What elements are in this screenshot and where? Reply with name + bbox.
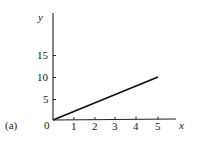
x-axis-label: x [178,119,184,131]
y-tick-label-5: 5 [43,93,49,105]
y-axis-label: y [37,11,43,23]
y-tick-label-10: 10 [37,71,49,83]
x-tick-label-1: 1 [71,120,77,132]
panel-label: (a) [5,119,18,132]
x-tick-label-3: 3 [112,120,118,132]
x-tick-label-4: 4 [133,120,139,132]
x-tick-label-2: 2 [92,120,98,132]
x-tick-label-5: 5 [155,120,161,132]
y-tick-label-15: 15 [37,49,49,61]
line-chart: y 15 10 5 0 (a) 1 2 3 4 5 x [0,0,197,141]
origin-label: 0 [44,119,50,131]
data-line [53,77,158,120]
